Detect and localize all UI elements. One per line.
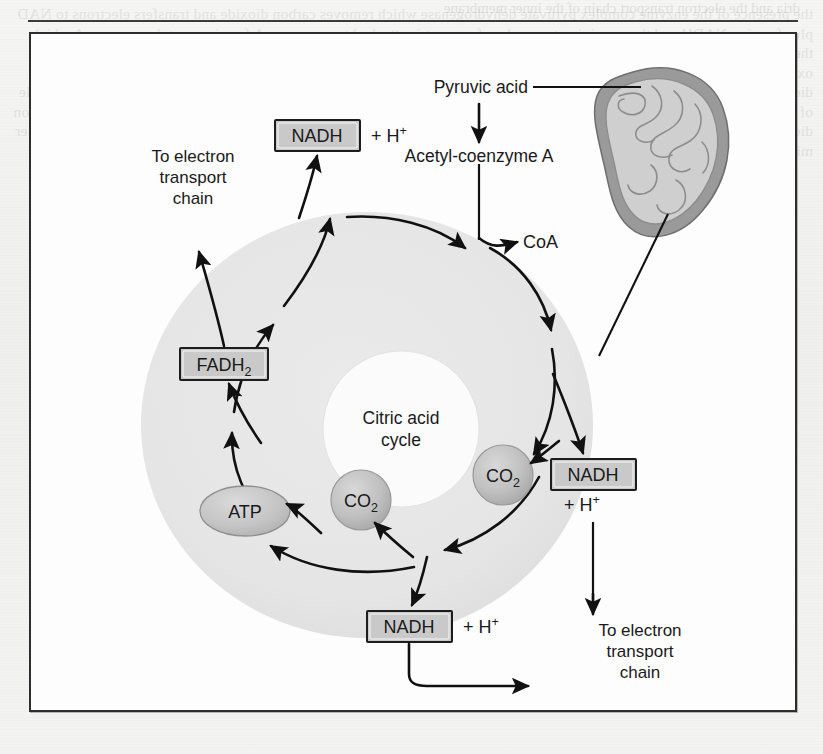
nadh-top-plus-h: + H+ (371, 124, 407, 146)
fadh2-box: FADH2 (180, 348, 268, 380)
cycle-center-label-line1: Citric acid (363, 408, 440, 428)
to-electron-transport-chain-right: To electron transport chain (598, 621, 681, 682)
etc-right-line1: To electron (598, 621, 681, 640)
nadh-bottom-plus-h: + H+ (463, 615, 499, 637)
citric-acid-cycle-figure: CO2 CO2 ATP FA (31, 34, 795, 710)
to-electron-transport-chain-left: To electron transport chain (151, 147, 234, 208)
nadh-top-label: NADH (291, 126, 342, 146)
acetyl-coa-entry (479, 164, 517, 246)
etc-left-line2: transport (159, 168, 226, 187)
co2-bubble-right: CO2 (473, 445, 533, 505)
etc-left-line3: chain (173, 189, 214, 208)
nadh-right-box: NADH + H+ (551, 459, 636, 515)
nadh-top-box: NADH + H+ (275, 120, 407, 151)
atp-label: ATP (228, 502, 262, 522)
etc-right-line3: chain (620, 663, 661, 682)
nadh-bottom-label: NADH (383, 617, 434, 637)
nadh-bottom-box: NADH + H+ (367, 611, 499, 642)
acetyl-coenzyme-a-label: Acetyl-coenzyme A (405, 146, 554, 166)
co2-right-sub: 2 (513, 476, 520, 490)
mitochondrion-leader-bottom (599, 214, 668, 356)
co2-right-label: CO (486, 466, 513, 486)
co2-bubble-left: CO2 (331, 470, 391, 530)
nadh-top-arrow (299, 156, 317, 218)
atp-bubble: ATP (200, 486, 290, 536)
cycle-center-label-line2: cycle (381, 430, 421, 450)
nadh-right-label: NADH (567, 465, 618, 485)
nadh-right-plus-h: + H+ (564, 493, 600, 515)
co2-left-sub: 2 (371, 501, 378, 515)
mitochondrion-icon (533, 68, 729, 356)
page-top-rule (28, 20, 798, 22)
scanned-page-background: dria and the electron transport chain of… (0, 0, 823, 754)
etc-right-line2: transport (606, 642, 673, 661)
nadh-bottom-to-etc-arrow (409, 644, 528, 686)
bleed-through-text-top: dria and the electron transport chain of… (30, 0, 800, 22)
co2-left-label: CO (344, 491, 371, 511)
fadh2-sub: 2 (245, 365, 252, 379)
fadh2-label: FADH (197, 355, 245, 375)
etc-left-line1: To electron (151, 147, 234, 166)
pyruvic-acid-label: Pyruvic acid (434, 77, 528, 97)
coa-label: CoA (523, 232, 558, 252)
figure-frame: CO2 CO2 ATP FA (29, 32, 797, 712)
